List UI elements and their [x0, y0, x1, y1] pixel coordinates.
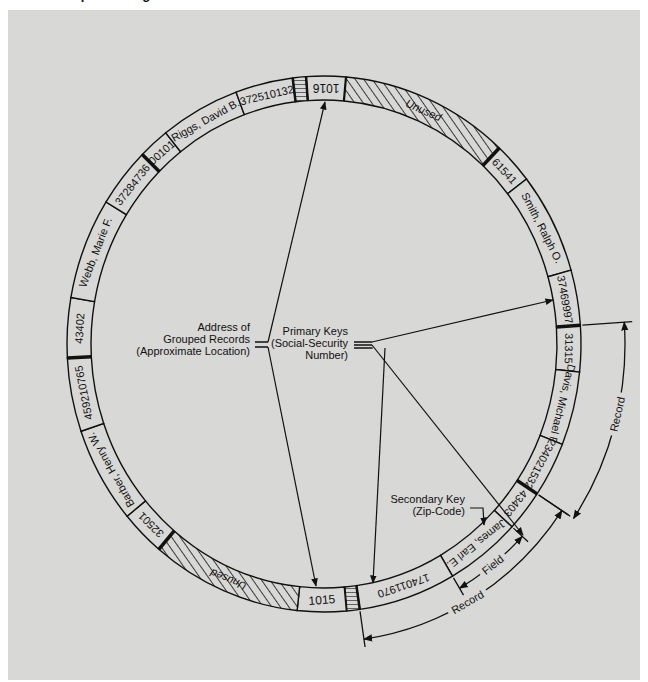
ring-segment-key: 43402 [67, 297, 95, 358]
segment-label: 1015 [308, 592, 336, 608]
ring-segment-name: Barber, Henry W. [81, 423, 146, 516]
address-callout-label: Address ofGrouped Records(Approximate Lo… [136, 321, 251, 357]
svg-text:Grouped Records: Grouped Records [163, 333, 250, 345]
ring-segment-key: 459210765 [67, 357, 103, 431]
ring-segment-name: Webb, Marie F. [71, 202, 127, 302]
ring-segment-name: Riggs, David B. [166, 92, 245, 152]
primary-key-callout-label: Primary Keys(Social-SecurityNumber) [271, 325, 349, 361]
ring-segment-name: Davis, Michael R. [540, 363, 580, 449]
svg-text:(Approximate Location): (Approximate Location) [136, 345, 250, 357]
ring-segment-marker [293, 77, 308, 102]
ring-segment-address: 1015 [297, 587, 346, 612]
ring-segment-name: James, Earl E. [441, 510, 512, 576]
ring-segment-key: 372510132 [236, 78, 296, 115]
ring-segment-address: 1016 [306, 76, 346, 101]
ring-segment-unused: Unused [159, 531, 300, 611]
ring-segment-name: Smith, Ralph O. [508, 179, 571, 277]
secondary-key-callout-label: Secondary Key(Zip-Code) [390, 493, 465, 517]
svg-text:Primary Keys: Primary Keys [283, 325, 349, 337]
segment-label: 31315 [563, 333, 576, 364]
svg-text:Address of: Address of [197, 321, 251, 333]
segment-label: 1016 [312, 81, 339, 95]
segment-label: 43402 [73, 313, 87, 344]
ring-segment-key: 174011970 [356, 555, 452, 609]
ring-segment-unused: Unused [344, 77, 499, 166]
ring-segment-key: 37469997 [548, 270, 580, 327]
record-dimension-label: Record [449, 588, 486, 616]
svg-text:Secondary Key: Secondary Key [390, 493, 465, 505]
svg-text:(Zip-Code): (Zip-Code) [412, 505, 465, 517]
record-dimension-label-outer: Record [607, 396, 627, 433]
svg-text:(Social-Security: (Social-Security [271, 337, 349, 349]
svg-text:Number): Number) [305, 349, 348, 361]
circular-file-diagram: 1016Unused61541Smith, Ralph O.3746999731… [0, 0, 648, 682]
